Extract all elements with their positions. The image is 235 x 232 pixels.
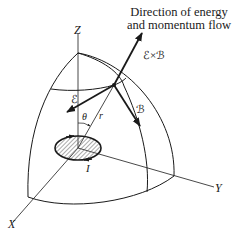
- poynting-vector-label: ℰ×ℬ: [143, 50, 165, 61]
- coordinate-axes: [13, 33, 214, 222]
- current-loop: [55, 136, 101, 160]
- y-axis-label: Y: [215, 182, 222, 194]
- z-axis-label: Z: [74, 24, 81, 36]
- theta-arc: [78, 123, 90, 126]
- magnetic-vector-label: ℬ: [136, 104, 145, 115]
- x-axis-label: X: [8, 218, 15, 230]
- sphere-arc-left: [28, 53, 78, 197]
- electric-vector-label: ℰ: [71, 94, 78, 105]
- caption-line-2: and momentum flow: [124, 19, 234, 32]
- sphere-octant: [28, 53, 174, 204]
- field-point: [112, 83, 116, 87]
- caption: Direction of energy and momentum flow: [124, 6, 234, 32]
- current-label: I: [86, 163, 90, 174]
- theta-label: θ: [82, 112, 87, 122]
- diagram-canvas: [0, 0, 235, 232]
- radius-label: r: [99, 111, 103, 121]
